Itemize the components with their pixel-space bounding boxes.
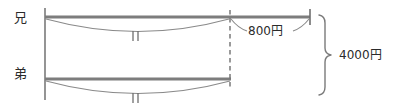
row-label-ani: 兄	[14, 11, 27, 24]
total-brace	[319, 15, 331, 95]
arc-difference-left	[231, 19, 247, 31]
difference-value-label: 800円	[248, 25, 283, 37]
row-label-otouto: 弟	[14, 67, 27, 80]
arc-otouto-equal	[46, 81, 230, 94]
total-value-label: 4000円	[339, 49, 382, 61]
arc-difference-right	[293, 19, 309, 31]
tape-diagram: 兄 弟 800円 4000円	[0, 0, 408, 111]
arc-ani-equal	[46, 19, 229, 32]
